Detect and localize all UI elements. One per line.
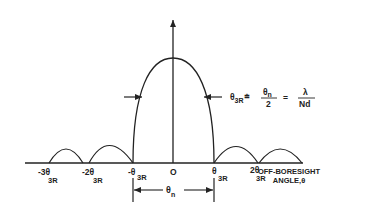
svg-text:2: 2	[266, 99, 271, 109]
side-lobe-left-2	[89, 146, 133, 164]
tick-label-neg1-sub: 3R	[137, 173, 147, 182]
origin-label: O	[170, 167, 177, 177]
tick-label-pos1: θ	[212, 166, 217, 176]
tick-label-neg3-sub: 3R	[48, 176, 58, 185]
svg-text:Nd: Nd	[299, 99, 310, 109]
axis-title-line1: OFF-BORESIGHT	[258, 167, 320, 176]
side-lobe-right-1	[214, 147, 258, 164]
side-lobe-left-3	[49, 149, 83, 163]
svg-text:θn: θn	[263, 87, 272, 98]
beam-pattern-diagram: θn -3θ 3R -2θ 3R -θ 3R O θ 3R 2θ 3R OFF-…	[0, 0, 374, 211]
svg-text:λ: λ	[303, 87, 308, 97]
side-lobe-right-2	[259, 149, 302, 163]
null-width-label: θn	[166, 185, 175, 198]
tick-label-neg1: -θ	[128, 167, 136, 177]
tick-label-pos1-sub: 3R	[218, 174, 228, 183]
beamwidth-equation: θ3R≐ θn 2 = λ Nd	[230, 87, 315, 109]
axis-title-line2: ANGLE,θ	[273, 176, 305, 185]
svg-text:=: =	[283, 93, 288, 103]
svg-text:θ3R≐: θ3R≐	[230, 92, 250, 104]
tick-label-neg2-sub: 3R	[93, 176, 103, 185]
